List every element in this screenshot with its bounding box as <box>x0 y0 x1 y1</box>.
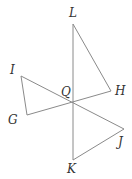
segment-ig <box>21 76 27 115</box>
label-k: K <box>66 162 77 176</box>
label-i: I <box>9 63 15 77</box>
label-h: H <box>114 84 126 98</box>
segment-jk <box>73 129 124 160</box>
label-q: Q <box>61 85 71 99</box>
segment-lh <box>73 24 111 91</box>
labels: L H I G Q J K <box>8 6 126 176</box>
segments <box>21 24 124 160</box>
geometry-diagram: L H I G Q J K <box>0 0 132 179</box>
label-l: L <box>68 6 77 20</box>
label-g: G <box>8 113 18 127</box>
label-j: J <box>115 135 124 149</box>
